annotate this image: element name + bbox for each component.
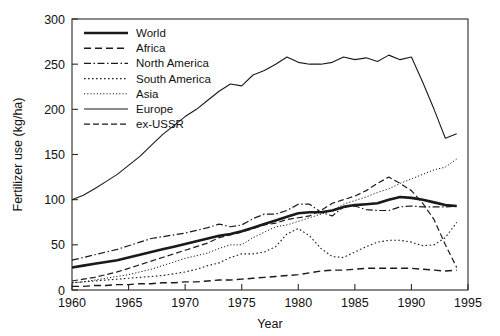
legend-label-world: World <box>136 27 166 39</box>
x-tick-label-1975: 1975 <box>228 296 256 310</box>
plot-frame <box>72 19 468 290</box>
y-tick-label-200: 200 <box>44 103 65 117</box>
x-tick-label-1995: 1995 <box>454 296 482 310</box>
series-line-ex-ussr <box>72 177 457 281</box>
legend-label-africa: Africa <box>136 42 166 54</box>
y-tick-label-50: 50 <box>51 238 65 252</box>
y-tick-label-250: 250 <box>44 58 65 72</box>
x-tick-label-1965: 1965 <box>115 296 143 310</box>
series-line-europe <box>72 55 457 200</box>
x-tick-label-1985: 1985 <box>341 296 369 310</box>
x-axis-title: Year <box>257 317 282 331</box>
series-line-south-america <box>72 222 457 283</box>
chart-figure: 0501001502002503001960196519701975198019… <box>0 0 500 336</box>
fertilizer-use-line-chart: 0501001502002503001960196519701975198019… <box>0 0 500 336</box>
x-tick-label-1980: 1980 <box>284 296 312 310</box>
y-tick-label-100: 100 <box>44 193 65 207</box>
legend-label-south-america: South America <box>136 73 211 85</box>
legend-label-europe: Europe <box>136 103 173 115</box>
x-tick-label-1990: 1990 <box>398 296 426 310</box>
x-tick-label-1960: 1960 <box>58 296 86 310</box>
y-tick-label-150: 150 <box>44 148 65 162</box>
legend-label-asia: Asia <box>136 88 159 100</box>
series-line-africa <box>72 268 457 286</box>
series-line-asia <box>72 159 457 283</box>
legend-label-north-america: North America <box>136 57 209 69</box>
x-tick-label-1970: 1970 <box>171 296 199 310</box>
y-axis-title: Fertilizer use (kg/ha) <box>11 98 25 212</box>
y-tick-label-300: 300 <box>44 13 65 27</box>
legend-label-ex-ussr: ex-USSR <box>136 118 184 130</box>
